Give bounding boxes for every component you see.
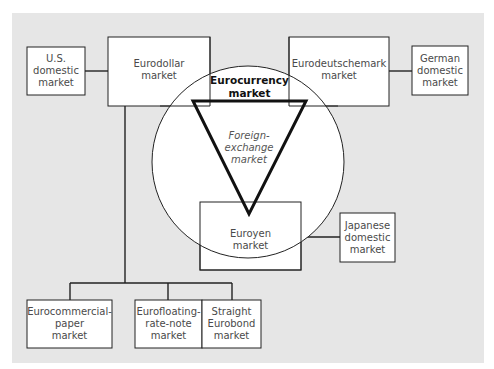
- label-line: exchange: [225, 142, 274, 154]
- label-line: domestic: [345, 232, 391, 244]
- label-line: market: [151, 330, 187, 342]
- label-line: Eurocurrency: [210, 74, 289, 87]
- label-line: market: [38, 77, 74, 89]
- us-domestic-label: U.S. domestic market: [27, 47, 85, 95]
- label-line: Eurobond: [208, 318, 256, 330]
- eurocurrency-label: Eurocurrency market: [210, 73, 289, 101]
- label-line: market: [422, 77, 458, 89]
- label-line: market: [233, 240, 269, 252]
- eurodollar-label: Eurodollar market: [108, 56, 210, 84]
- label-line: market: [350, 244, 386, 256]
- eurofloating-rate-note-label: Eurofloating- rate-note market: [135, 300, 202, 348]
- japanese-domestic-label: Japanese domestic market: [340, 213, 395, 262]
- label-line: Straight: [212, 306, 252, 318]
- label-line: Euroyen: [230, 228, 271, 240]
- label-line: Foreign-: [228, 130, 269, 142]
- eurocommercial-paper-label: Eurocommercial- paper market: [27, 300, 112, 348]
- eurodeutschemark-label: Eurodeutschemark market: [289, 56, 389, 84]
- straight-eurobond-label: Straight Eurobond market: [202, 300, 261, 348]
- label-line: market: [141, 70, 177, 82]
- label-line: market: [228, 87, 270, 100]
- label-line: paper: [55, 318, 84, 330]
- label-line: Eurofloating-: [136, 306, 200, 318]
- label-line: German: [420, 53, 460, 65]
- label-line: market: [231, 154, 267, 166]
- label-line: market: [52, 330, 88, 342]
- label-line: Eurodollar: [134, 58, 185, 70]
- foreign-exchange-label: Foreign- exchange market: [214, 128, 284, 168]
- label-line: domestic: [417, 65, 463, 77]
- label-line: Eurocommercial-: [27, 306, 112, 318]
- label-line: rate-note: [145, 318, 191, 330]
- label-line: market: [214, 330, 250, 342]
- label-line: Eurodeutschemark: [292, 58, 386, 70]
- diagram-canvas: U.S. domestic market Eurodollar market E…: [0, 0, 494, 369]
- label-line: U.S.: [46, 53, 66, 65]
- label-line: domestic: [33, 65, 79, 77]
- euroyen-label: Euroyen market: [200, 226, 301, 254]
- label-line: market: [321, 70, 357, 82]
- german-domestic-label: German domestic market: [412, 46, 468, 95]
- label-line: Japanese: [345, 220, 390, 232]
